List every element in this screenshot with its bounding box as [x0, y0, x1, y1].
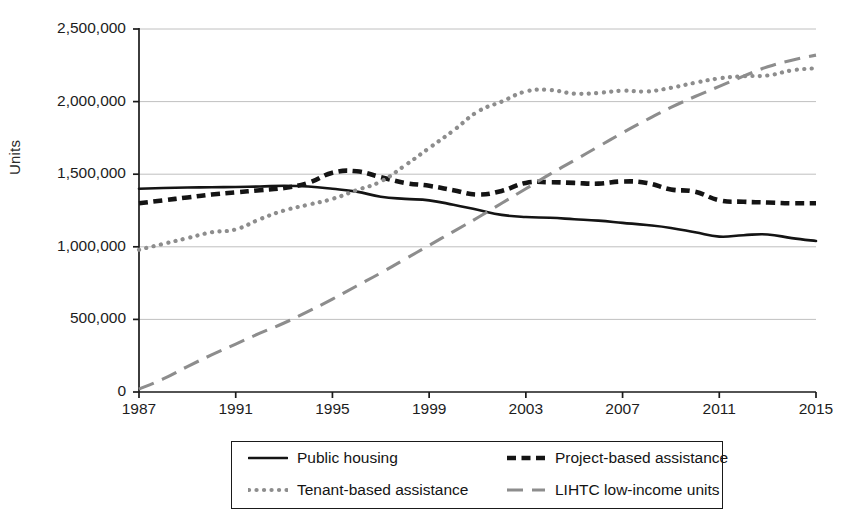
legend-swatch-longdash-icon [506, 483, 546, 497]
legend-item[interactable]: Tenant-based assistance [232, 481, 490, 499]
chart-legend: Public housingProject-based assistanceTe… [231, 441, 723, 509]
gridlines [139, 29, 816, 319]
legend-label: Project-based assistance [555, 449, 728, 467]
series-line [139, 68, 816, 250]
series-line [139, 55, 816, 389]
legend-label: Public housing [297, 449, 398, 467]
data-series [139, 55, 816, 389]
legend-swatch-dashed-icon [506, 451, 546, 465]
legend-item[interactable]: Public housing [232, 449, 490, 467]
legend-swatch-solid-icon [248, 451, 288, 465]
legend-item[interactable]: LIHTC low-income units [490, 481, 724, 499]
legend-item[interactable]: Project-based assistance [490, 449, 724, 467]
legend-swatch-dotted-icon [248, 483, 288, 497]
chart-container: Units 0500,0001,000,0001,500,0002,000,00… [0, 0, 845, 529]
legend-label: Tenant-based assistance [297, 481, 468, 499]
legend-label: LIHTC low-income units [555, 481, 720, 499]
